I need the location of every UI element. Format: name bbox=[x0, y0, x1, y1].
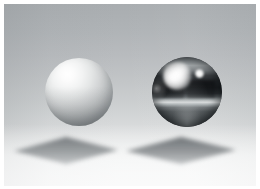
matte-sphere-terminator bbox=[45, 58, 113, 126]
chrome-sphere bbox=[152, 57, 222, 127]
chrome-sphere-edge-vignette bbox=[152, 57, 222, 127]
shadow-polygon bbox=[14, 137, 118, 164]
render-canvas bbox=[0, 0, 260, 189]
chrome-sphere-shadow-shape bbox=[126, 137, 236, 164]
shadow-polygon bbox=[126, 137, 236, 164]
chrome-sphere-shadow bbox=[126, 137, 236, 164]
matte-sphere bbox=[45, 58, 113, 126]
matte-sphere-shadow bbox=[14, 137, 118, 164]
matte-sphere-shadow-shape bbox=[14, 137, 118, 164]
rendered-image bbox=[4, 4, 256, 186]
